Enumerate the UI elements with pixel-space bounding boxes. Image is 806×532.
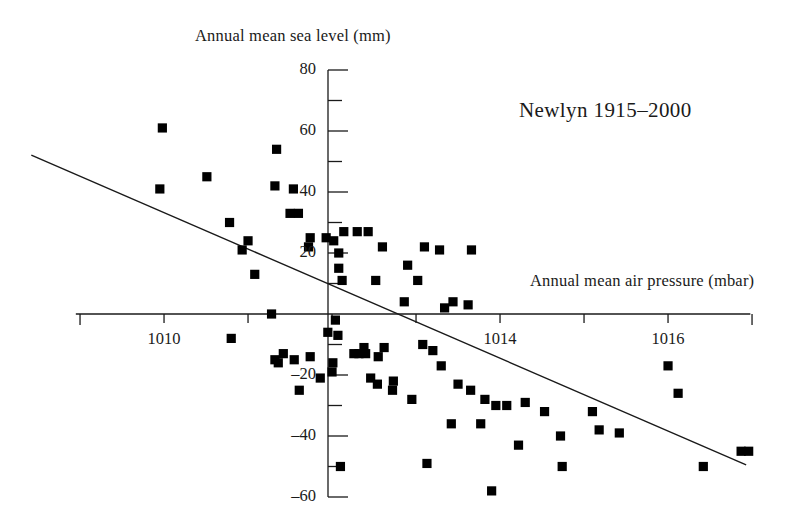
x-tick-label-1016: 1016 [638, 329, 698, 349]
data-point [435, 245, 444, 254]
data-point [295, 386, 304, 395]
data-point [306, 233, 315, 242]
data-point [285, 209, 294, 218]
data-point [467, 245, 476, 254]
data-point [744, 447, 753, 456]
data-point [225, 218, 234, 227]
data-point [595, 425, 604, 434]
data-point [267, 309, 276, 318]
y-tick-label--40: –40 [254, 425, 316, 445]
data-point [290, 355, 299, 364]
data-point [279, 349, 288, 358]
data-point [487, 486, 496, 495]
data-point [316, 373, 325, 382]
data-point [480, 395, 489, 404]
data-point [403, 261, 412, 270]
data-point [333, 331, 342, 340]
data-point [476, 419, 485, 428]
data-point [334, 264, 343, 273]
data-point [400, 297, 409, 306]
data-point [540, 407, 549, 416]
data-point [364, 227, 373, 236]
data-point [447, 419, 456, 428]
y-tick-label--60: –60 [254, 486, 316, 506]
data-point [588, 407, 597, 416]
data-point [334, 248, 343, 257]
data-point [329, 236, 338, 245]
data-point [521, 398, 530, 407]
data-point [453, 380, 462, 389]
data-point [448, 297, 457, 306]
data-point [388, 386, 397, 395]
data-point [418, 340, 427, 349]
data-point [294, 209, 303, 218]
data-point [243, 236, 252, 245]
data-point [272, 145, 281, 154]
x-axis [76, 314, 752, 325]
data-point [440, 303, 449, 312]
data-point [491, 401, 500, 410]
data-point [323, 328, 332, 337]
data-point [328, 358, 337, 367]
data-point [238, 245, 247, 254]
plot-canvas [0, 0, 806, 532]
x-tick-label-1010: 1010 [134, 329, 194, 349]
data-point [502, 401, 511, 410]
data-point [331, 316, 340, 325]
data-point [158, 123, 167, 132]
data-point [558, 462, 567, 471]
data-point [464, 300, 473, 309]
data-point [514, 441, 523, 450]
data-point [373, 380, 382, 389]
data-point [420, 242, 429, 251]
data-point [361, 349, 370, 358]
data-point [389, 377, 398, 386]
data-point [428, 346, 437, 355]
y-tick-label-40: 40 [254, 181, 316, 201]
data-point [413, 276, 422, 285]
scatter-plot-figure: Annual mean sea level (mm) Annual mean a… [0, 0, 806, 532]
data-point [353, 227, 362, 236]
data-point [378, 242, 387, 251]
data-point [556, 431, 565, 440]
data-point [349, 349, 358, 358]
data-point [202, 172, 211, 181]
data-point [371, 276, 380, 285]
data-point-markers [155, 123, 753, 495]
x-tick-label-1014: 1014 [470, 329, 530, 349]
data-point [338, 276, 347, 285]
y-tick-label-20: 20 [254, 242, 316, 262]
data-point [336, 462, 345, 471]
data-point [674, 389, 683, 398]
y-tick-label--20: –20 [254, 364, 316, 384]
data-point [615, 428, 624, 437]
data-point [422, 459, 431, 468]
data-point [250, 270, 259, 279]
data-point [306, 352, 315, 361]
y-tick-label-60: 60 [254, 120, 316, 140]
data-point [466, 386, 475, 395]
regression-line [31, 155, 746, 465]
data-point [155, 184, 164, 193]
data-point [374, 352, 383, 361]
data-point [699, 462, 708, 471]
y-tick-label-80: 80 [254, 59, 316, 79]
data-point [380, 343, 389, 352]
data-point [339, 227, 348, 236]
data-point [227, 334, 236, 343]
data-point [327, 367, 336, 376]
data-point [437, 361, 446, 370]
data-point [407, 395, 416, 404]
data-point [663, 361, 672, 370]
